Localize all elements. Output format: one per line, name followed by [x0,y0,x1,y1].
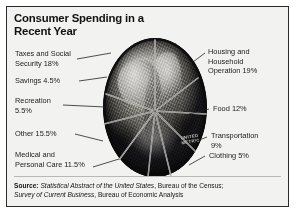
label-clothing-line-1: Clothing 5% [209,151,249,161]
label-savings-line-1: Savings 4.5% [15,76,60,86]
source-note: Source: Statistical Abstract of the Unit… [14,181,282,199]
leader-line-other [75,134,103,141]
page-title: Consumer Spending in a Recent Year [14,12,214,37]
label-other: Other 15.5% [15,129,57,139]
pie-chart-coin: UNITED METRIC [103,38,207,177]
leader-line-recreation [63,105,105,107]
label-transportation-line-1: Transportation [211,131,258,141]
label-medical-line-1: Medical and [15,150,85,160]
page-title-line-1: Consumer Spending in a [14,12,214,25]
label-savings: Savings 4.5% [15,76,60,86]
source-publisher-primary: , Bureau of the Census; [154,182,223,189]
coin-image: UNITED METRIC [103,38,207,177]
label-medical-and-personal-care: Medical and Personal Care 11.5% [15,150,85,169]
source-title-secondary: Survey of Current Business [14,191,94,198]
source-label: Source: [14,182,39,189]
label-transportation: Transportation 9% [211,131,258,150]
label-housing-and-household-operation: Housing and Household Operation 19% [208,47,257,76]
label-other-line-1: Other 15.5% [15,129,57,139]
source-divider [14,176,281,177]
source-title-primary: Statistical Abstract of the United State… [40,182,154,189]
label-clothing: Clothing 5% [209,151,249,161]
figure-panel: Consumer Spending in a Recent Year UNITE… [6,6,289,207]
chart-stage: UNITED METRIC [7,37,288,177]
label-housing-line-3: Operation 19% [208,66,257,76]
label-recreation-line-2: 5.5% [15,106,51,116]
label-food: Food 12% [213,104,247,114]
label-recreation: Recreation 5.5% [15,96,51,115]
label-food-line-1: Food 12% [213,104,247,114]
source-line-1: Source: Statistical Abstract of the Unit… [14,181,282,190]
source-line-2: Survey of Current Business, Bureau of Ec… [14,190,282,199]
label-transportation-line-2: 9% [211,141,258,151]
label-taxes-line-1: Taxes and Social [15,49,71,59]
page-title-line-2: Recent Year [14,25,214,38]
label-taxes-line-2: Security 18% [15,59,71,69]
label-medical-line-2: Personal Care 11.5% [15,160,85,170]
label-housing-line-2: Household [208,57,257,67]
label-taxes-and-social-security: Taxes and Social Security 18% [15,49,71,68]
label-recreation-line-1: Recreation [15,96,51,106]
source-publisher-secondary: , Bureau of Economic Analysis [94,191,183,198]
coin-rim [103,38,207,177]
label-housing-line-1: Housing and [208,47,257,57]
